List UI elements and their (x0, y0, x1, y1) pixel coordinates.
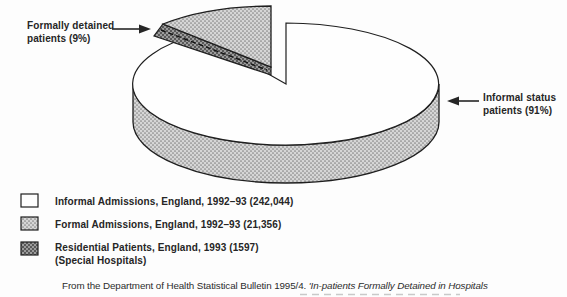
right-arrow-icon (447, 97, 479, 106)
callout-formally-detained: Formally detained patients (9%) (27, 20, 114, 45)
source-caption-title: 'In-patients Formally Detained in Hospit… (309, 280, 488, 291)
callout-informal-status: Informal status patients (91%) (483, 92, 556, 117)
legend-label-formal: Formal Admissions, England, 1992–93 (21,… (55, 218, 281, 231)
callout-formally-detained-line2: patients (9%) (27, 33, 114, 46)
callout-informal-status-line2: patients (91%) (483, 105, 556, 118)
legend-swatch-informal (21, 194, 38, 207)
legend-swatch-residential (21, 242, 38, 255)
callout-informal-status-line1: Informal status (483, 92, 556, 105)
legend-label-informal: Informal Admissions, England, 1992–93 (2… (55, 195, 293, 208)
pie-chart-figure: Formally detained patients (9%) Informal… (0, 0, 567, 297)
legend-label-residential-line1: Residential Patients, England, 1993 (159… (55, 241, 259, 254)
legend-label-residential: Residential Patients, England, 1993 (159… (55, 241, 259, 267)
source-caption-prefix: From the Department of Health Statistica… (62, 280, 309, 291)
legend-swatch-formal (21, 217, 38, 230)
left-arrow-icon (112, 25, 151, 34)
callout-formally-detained-line1: Formally detained (27, 20, 114, 33)
source-caption: From the Department of Health Statistica… (62, 280, 488, 291)
legend-label-residential-line2: (Special Hospitals) (55, 254, 259, 267)
